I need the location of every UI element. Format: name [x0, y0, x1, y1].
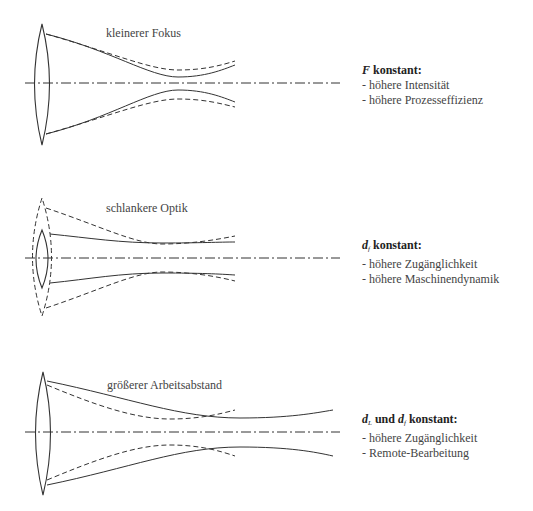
- benefit-item: - höhere Zugänglichkeit: [362, 431, 477, 446]
- panel-3-caption: größerer Arbeitsabstand: [107, 378, 222, 393]
- benefit-item: - höhere Maschinendynamik: [362, 272, 499, 287]
- panel-2-caption: schlankere Optik: [106, 201, 188, 216]
- condition-suffix: konstant:: [370, 238, 422, 252]
- conjunction: und: [372, 412, 398, 426]
- condition-heading: F konstant:: [362, 63, 483, 78]
- beam-dashed-lower: [46, 99, 235, 134]
- beam-solid-upper: [50, 234, 235, 243]
- panel-1-caption: kleinerer Fokus: [106, 26, 181, 41]
- panel-2-conditions: df konstant: - höhere Zugänglichkeit - h…: [362, 238, 499, 287]
- panel-1-drawing: [25, 24, 340, 145]
- condition-heading: dL und df konstant:: [362, 412, 477, 431]
- lens-icon: [35, 24, 50, 145]
- lens-icon: [36, 372, 51, 495]
- panel-3-conditions: dL und df konstant: - höhere Zugänglichk…: [362, 412, 477, 461]
- symbol-f: F: [362, 63, 370, 77]
- lens-large-dashed-icon: [33, 198, 52, 316]
- condition-suffix: konstant:: [406, 412, 458, 426]
- lens-slim-icon: [36, 230, 48, 288]
- beam-solid-lower: [46, 90, 235, 134]
- benefit-item: - höhere Prozesseffizienz: [362, 93, 483, 108]
- panel-1-conditions: F konstant: - höhere Intensität - höhere…: [362, 63, 483, 108]
- benefit-item: - höhere Zugänglichkeit: [362, 257, 499, 272]
- beam-solid-lower: [47, 447, 333, 485]
- benefit-item: - höhere Intensität: [362, 78, 483, 93]
- beam-dashed-lower: [46, 272, 235, 308]
- condition-heading: df konstant:: [362, 238, 499, 257]
- benefit-item: - Remote-Bearbeitung: [362, 446, 477, 461]
- beam-solid-lower: [50, 273, 235, 283]
- condition-suffix: konstant:: [370, 63, 422, 77]
